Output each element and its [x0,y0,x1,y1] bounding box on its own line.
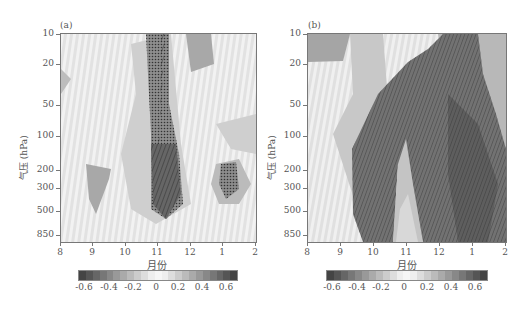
colorbar-tick: 0.6 [460,282,490,292]
x-tick-label: 12 [180,247,200,257]
x-tick-mark [157,242,158,246]
y-tick-label: 100 [28,130,54,140]
y-tick-mark [303,105,307,106]
y-tick-mark [303,188,307,189]
x-tick-label: 10 [115,247,135,257]
y-tick-label: 20 [28,58,54,68]
colorbar [78,270,238,281]
x-tick-label: 10 [363,247,383,257]
y-tick-mark [303,136,307,137]
panel-b: (b) 10 20 50 100 200 300 500 850 [263,0,526,310]
y-axis-label: 气压 (hPa) [17,135,30,180]
y-tick-mark [303,64,307,65]
panel-a: (a) [0,0,263,310]
x-tick-mark [307,242,308,246]
y-tick-label: 200 [275,164,301,174]
x-tick-mark [505,242,506,246]
x-tick-mark [255,242,256,246]
x-tick-mark [439,242,440,246]
y-tick-mark [56,235,60,236]
x-tick-label: 11 [396,247,416,257]
y-axis-label: 气压 (hPa) [265,135,278,180]
x-tick-label: 2 [245,247,265,257]
y-tick-mark [56,136,60,137]
y-tick-label: 850 [275,229,301,239]
y-tick-label: 500 [28,205,54,215]
y-tick-mark [56,34,60,35]
x-tick-mark [190,242,191,246]
plot-area [307,33,507,243]
x-tick-label: 11 [147,247,167,257]
y-tick-label: 10 [275,28,301,38]
x-tick-mark [125,242,126,246]
panel-label: (a) [60,20,72,30]
x-tick-label: 1 [462,247,482,257]
y-tick-label: 200 [28,164,54,174]
y-tick-mark [56,170,60,171]
x-tick-mark [92,242,93,246]
y-tick-mark [56,105,60,106]
y-tick-label: 300 [28,182,54,192]
y-tick-mark [303,34,307,35]
colorbar [326,270,488,281]
y-tick-label: 10 [28,28,54,38]
y-tick-mark [303,235,307,236]
x-tick-label: 9 [82,247,102,257]
x-tick-mark [60,242,61,246]
y-tick-label: 50 [275,99,301,109]
y-tick-label: 500 [275,205,301,215]
x-tick-mark [406,242,407,246]
x-tick-label: 12 [429,247,449,257]
x-tick-label: 9 [330,247,350,257]
x-tick-label: 8 [297,247,317,257]
y-tick-label: 20 [275,58,301,68]
x-tick-mark [340,242,341,246]
plot-area [60,33,257,243]
y-tick-label: 50 [28,99,54,109]
heatmap [308,34,506,242]
y-tick-label: 300 [275,182,301,192]
x-tick-mark [222,242,223,246]
x-tick-label: 8 [50,247,70,257]
x-tick-mark [472,242,473,246]
y-tick-mark [303,211,307,212]
heatmap [61,34,256,242]
y-tick-mark [56,188,60,189]
x-tick-mark [373,242,374,246]
y-tick-label: 850 [28,229,54,239]
y-tick-mark [303,170,307,171]
colorbar-tick: 0.6 [211,282,241,292]
x-tick-label: 2 [495,247,515,257]
y-tick-mark [56,64,60,65]
y-tick-label: 100 [275,130,301,140]
y-tick-mark [56,211,60,212]
panel-label: (b) [308,20,321,30]
x-tick-label: 1 [212,247,232,257]
